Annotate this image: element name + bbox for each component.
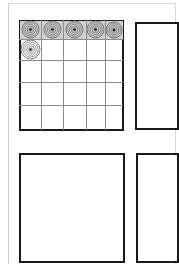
grid-row-line bbox=[19, 39, 123, 40]
concentric-circle-spiral-icon bbox=[86, 20, 105, 39]
concentric-circle-spiral-icon bbox=[105, 21, 123, 39]
grid-column-line bbox=[41, 20, 42, 130]
grid-column-line bbox=[86, 20, 87, 130]
concentric-circle-spiral-icon bbox=[21, 20, 40, 39]
panel-top-right bbox=[135, 22, 179, 130]
grid-row-line bbox=[19, 60, 123, 61]
grid-row-line bbox=[19, 82, 123, 83]
concentric-circle-spiral-icon bbox=[65, 20, 84, 39]
grid-row-line bbox=[19, 105, 123, 106]
panel-bottom-right bbox=[136, 153, 179, 263]
concentric-circle-spiral-icon bbox=[20, 39, 41, 60]
grid-column-line bbox=[63, 20, 64, 130]
grid-column-line bbox=[105, 20, 106, 130]
panel-bottom-left bbox=[19, 153, 125, 263]
concentric-circle-spiral-icon bbox=[43, 20, 62, 39]
